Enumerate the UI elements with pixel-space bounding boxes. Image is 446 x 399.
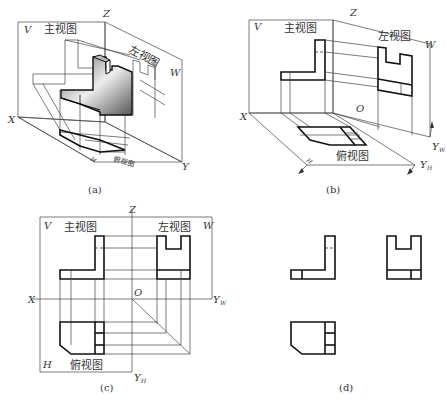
label-y: Y xyxy=(182,161,190,172)
label-yw-sub: W xyxy=(220,299,227,306)
h-plane xyxy=(249,113,415,165)
label-top-view: 俯视图 xyxy=(70,358,103,372)
panel-b-projection-planes: V 主视图 Z 左视图 W O X Y W Y H H 俯视图 (b) xyxy=(239,7,446,195)
label-v: V xyxy=(24,24,33,35)
three-view-projection-figure: V 主视图 Z 左视图 W X Y H 俯视图 (a) xyxy=(0,0,446,399)
label-front-view: 主视图 xyxy=(64,220,97,234)
solid-object xyxy=(61,57,132,115)
label-yh-sub: H xyxy=(426,164,433,171)
caption-c: (c) xyxy=(100,382,114,393)
label-z: Z xyxy=(102,8,111,19)
label-h: H xyxy=(89,155,99,165)
label-x: X xyxy=(27,294,36,305)
label-x: X xyxy=(239,111,248,122)
label-h: H xyxy=(42,359,52,370)
label-yw-sub: W xyxy=(439,146,446,153)
label-w: W xyxy=(425,39,436,50)
label-left-view: 左视图 xyxy=(378,29,411,43)
label-left-view: 左视图 xyxy=(158,220,191,234)
label-w: W xyxy=(203,220,214,231)
label-front-view: 主视图 xyxy=(284,21,317,35)
label-top-view: 俯视图 xyxy=(336,149,369,163)
label-left-view: 左视图 xyxy=(127,42,163,70)
label-v: V xyxy=(44,220,53,231)
label-z: Z xyxy=(128,204,137,215)
label-o: O xyxy=(356,103,364,114)
caption-a: (a) xyxy=(88,184,102,195)
label-yh-sub: H xyxy=(140,377,147,384)
label-front-view: 主视图 xyxy=(44,22,77,36)
panel-a-isometric: V 主视图 Z 左视图 W X Y H 俯视图 (a) xyxy=(7,8,190,195)
top-view-drawing xyxy=(291,322,335,354)
label-v: V xyxy=(254,21,263,32)
panel-d-three-views: (d) xyxy=(291,236,421,393)
left-view-drawing xyxy=(387,236,421,279)
label-z: Z xyxy=(349,7,358,18)
panel-c-unfolded-planes: V 主视图 Z 左视图 W O X Y W H 俯视图 Y H (c) xyxy=(27,204,227,393)
caption-b: (b) xyxy=(326,184,340,195)
front-view-drawing xyxy=(291,236,335,279)
label-top-view: 俯视图 xyxy=(112,154,135,168)
caption-d: (d) xyxy=(339,382,353,393)
label-w: W xyxy=(170,67,181,78)
label-o: O xyxy=(134,287,142,298)
label-x: X xyxy=(7,114,16,125)
